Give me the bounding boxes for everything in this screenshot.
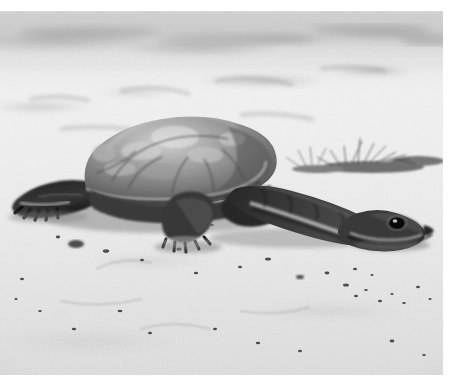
margin-top bbox=[0, 0, 456, 11]
margin-bottom bbox=[0, 375, 456, 391]
margin-right bbox=[443, 0, 456, 391]
photo-canvas bbox=[0, 0, 456, 391]
photograph-plate bbox=[0, 11, 443, 375]
film-grain bbox=[0, 11, 443, 375]
